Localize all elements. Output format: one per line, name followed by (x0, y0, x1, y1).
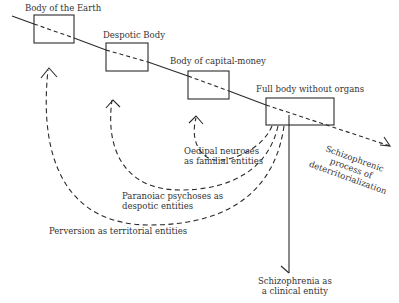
paranoiac-line1: Paranoiac psychoses as (122, 191, 223, 201)
oedipal-line1: Oedipal neuroses (184, 146, 263, 156)
paranoiac-line2: despotic entities (122, 201, 223, 211)
label-perversion: Perversion as territorial entities (49, 226, 187, 236)
main-axis-segment (12, 16, 34, 24)
label-schizophrenia: Schizophrenia as a clinical entity (258, 276, 332, 296)
schizophrenia-arrowhead (281, 266, 289, 273)
label-capital-money: Body of capital-money (170, 56, 266, 66)
deterritorialization-arrowhead (380, 137, 390, 146)
oedipal-line2: as familial entities (184, 156, 263, 166)
box-full-body-without-organs (266, 98, 334, 125)
schizophrenia-line2: a clinical entity (258, 286, 332, 296)
label-full-body: Full body without organs (256, 84, 364, 94)
paranoiac-curve (111, 100, 278, 190)
label-despotic-body: Despotic Body (103, 30, 165, 40)
paranoiac-arrowhead (106, 100, 120, 108)
box-body-of-earth (34, 15, 74, 43)
label-paranoiac: Paranoiac psychoses as despotic entities (122, 191, 223, 211)
schizophrenia-line1: Schizophrenia as (258, 276, 332, 286)
label-oedipal: Oedipal neuroses as familial entities (184, 146, 263, 166)
box-capital-money (188, 71, 229, 99)
label-body-of-earth: Body of the Earth (25, 3, 101, 13)
box-despotic-body (106, 43, 148, 71)
perversion-arrowhead (41, 68, 57, 78)
main-axis-segment (74, 38, 106, 50)
